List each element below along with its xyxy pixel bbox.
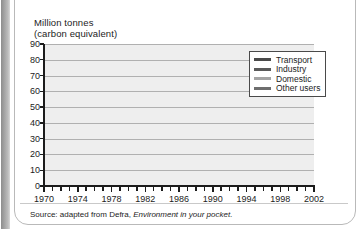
legend-swatch (254, 68, 271, 71)
y-axis-tick-label: 20 (20, 149, 40, 159)
source-divider (20, 203, 348, 204)
legend-item: Industry (254, 65, 320, 75)
chart-legend: TransportIndustryDomesticOther users (249, 51, 326, 97)
y-axis-tick-label: 60 (20, 86, 40, 96)
gridline (44, 44, 314, 45)
gridline (44, 107, 314, 108)
y-axis-tick-label: 50 (20, 102, 40, 112)
y-axis-tick-label: 30 (20, 134, 40, 144)
legend-item: Domestic (254, 74, 320, 84)
plot-area: 197019741978198219861990199419982002 Tra… (44, 44, 314, 186)
y-axis-tick-label: 0 (20, 181, 40, 191)
y-axis-tick-label: 90 (20, 39, 40, 49)
legend-label: Industry (276, 64, 306, 74)
y-axis-tick-label: 40 (20, 118, 40, 128)
legend-swatch (254, 58, 271, 61)
x-axis-line (43, 185, 315, 187)
source-note: Source: adapted from Defra, Environment … (30, 210, 232, 219)
y-axis-tick-label: 70 (20, 71, 40, 81)
legend-swatch (254, 87, 271, 90)
legend-label: Domestic (276, 74, 311, 84)
figure-root: Million tonnes (carbon equivalent) 01020… (0, 0, 362, 229)
y-axis-tick-label: 10 (20, 165, 40, 175)
legend-item: Transport (254, 55, 320, 65)
source-suffix: . (230, 210, 232, 219)
legend-swatch (254, 77, 271, 80)
y-axis-title: Million tonnes (carbon equivalent) (34, 18, 117, 39)
gridline (44, 139, 314, 140)
legend-label: Transport (276, 55, 312, 65)
legend-label: Other users (276, 83, 320, 93)
y-axis-tick-label: 80 (20, 55, 40, 65)
gridline (44, 154, 314, 155)
y-axis-line (43, 44, 45, 186)
y-axis-labels: 0102030405060708090 (18, 44, 40, 186)
source-title: Environment in your pocket (133, 210, 230, 219)
page-gutter-bar (0, 0, 11, 229)
legend-item: Other users (254, 84, 320, 94)
gridline (44, 123, 314, 124)
source-prefix: Source: adapted from Defra, (30, 210, 133, 219)
gridline (44, 170, 314, 171)
